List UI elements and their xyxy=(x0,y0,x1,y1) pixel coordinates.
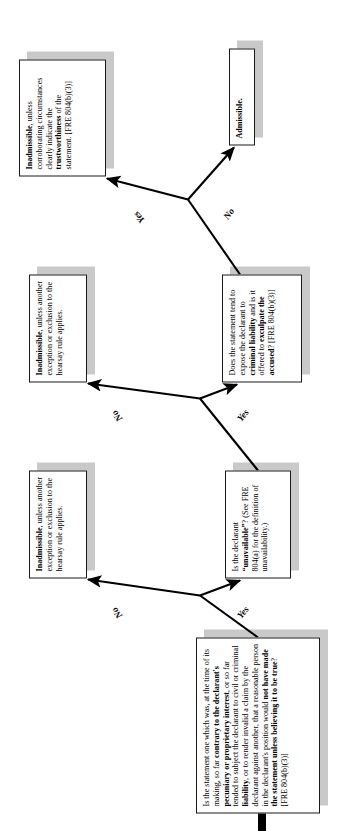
flowchart-canvas: Is the statement one which was, at the t… xyxy=(0,0,342,831)
edge-q3-no xyxy=(188,147,234,199)
terminal-admissible: Admissible. xyxy=(229,48,255,145)
terminal-inadmissible-2: Inadmissible, unless another exception o… xyxy=(29,274,87,382)
terminal-inadmissible-1: Inadmissible, unless another exception o… xyxy=(29,470,87,578)
edge-q1-yes xyxy=(200,580,240,595)
edge-q2-no xyxy=(88,383,200,398)
terminal-inadmissible-unless-corroborating: Inadmissible, unless corroborating circu… xyxy=(19,59,106,176)
decision-declarant-unavailable: Is the declarant “unavailable”? (See FRE… xyxy=(225,470,291,578)
decision-statement-against-interest: Is the statement one which was, at the t… xyxy=(196,637,320,813)
edge-q3-yes xyxy=(107,178,188,199)
edge-q1-no xyxy=(88,579,200,595)
decision-exculpate-accused: Does the statement tend to expose the de… xyxy=(222,274,302,382)
edge-q2-yes xyxy=(200,384,237,398)
